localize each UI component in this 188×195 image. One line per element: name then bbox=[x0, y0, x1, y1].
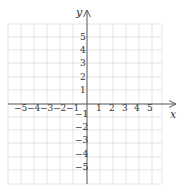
x-tick-label: −2 bbox=[53, 103, 66, 113]
y-tick-label: −2 bbox=[75, 122, 88, 132]
x-tick-label: −4 bbox=[27, 103, 41, 113]
y-tick-label: 3 bbox=[80, 58, 86, 68]
x-tick-label: −5 bbox=[14, 103, 28, 113]
y-tick-label: 5 bbox=[80, 32, 86, 42]
y-tick-label: 1 bbox=[80, 85, 86, 95]
x-tick-label: 2 bbox=[109, 103, 115, 113]
x-tick-label: 3 bbox=[122, 103, 128, 113]
x-tick-label: −3 bbox=[40, 103, 54, 113]
x-tick-label: 5 bbox=[147, 103, 153, 113]
y-tick-label: −4 bbox=[75, 149, 89, 159]
y-tick-label: 2 bbox=[80, 72, 86, 82]
x-tick-label: 4 bbox=[134, 103, 140, 113]
x-tick-label: 1 bbox=[96, 103, 102, 113]
y-tick-label: −3 bbox=[75, 135, 89, 145]
y-tick-label: −1 bbox=[75, 109, 88, 119]
y-tick-label: 4 bbox=[80, 45, 86, 55]
x-axis-label: x bbox=[170, 108, 177, 121]
coordinate-grid: x y −5 −4 −3 −2 −1 1 2 3 4 5 5 4 3 2 1 −… bbox=[0, 0, 188, 195]
y-tick-label: −5 bbox=[75, 162, 89, 172]
y-axis-label: y bbox=[75, 6, 83, 19]
